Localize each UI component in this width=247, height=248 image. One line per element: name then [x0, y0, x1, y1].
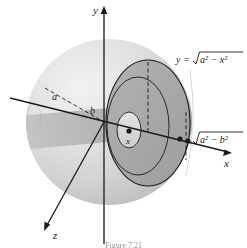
- z-axis-arrowhead: [44, 222, 50, 232]
- slice-center-point: [126, 128, 131, 133]
- figure-container: y x z a b x y = a² − x² a² − b² Figure 7…: [0, 0, 247, 248]
- half-length-label: a² − b²: [193, 132, 243, 145]
- intersection-point-outer: [185, 138, 190, 143]
- figure-caption: Figure 7.21: [0, 240, 247, 248]
- radius-a-label: a: [52, 91, 57, 102]
- y-axis-arrowhead: [101, 6, 108, 14]
- washer-cross-section: [100, 55, 200, 195]
- x-axis-label: x: [223, 157, 229, 169]
- slice-x-label: x: [125, 136, 130, 146]
- half-length-radicand: a² − b²: [200, 134, 229, 145]
- curve-equation-label: y = a² − x²: [175, 52, 243, 65]
- radius-b-label: b: [90, 105, 95, 116]
- curve-equation-lhs: y =: [175, 54, 190, 65]
- curve-equation-radicand: a² − x²: [200, 54, 228, 65]
- y-axis-label: y: [92, 4, 98, 16]
- intersection-point-inner: [177, 136, 182, 141]
- napkin-ring-diagram: y x z a b x y = a² − x² a² − b²: [0, 0, 247, 248]
